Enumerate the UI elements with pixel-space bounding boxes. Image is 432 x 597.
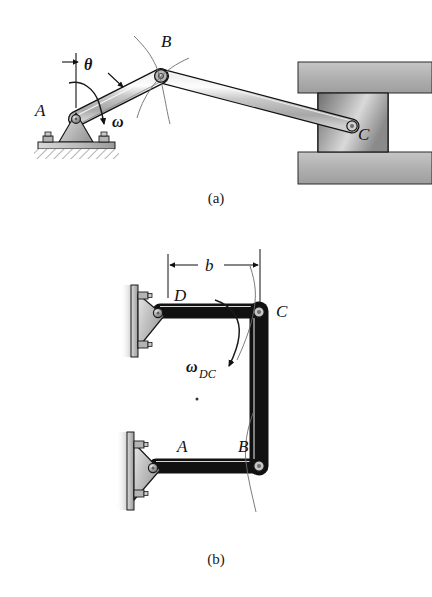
ground-support-a	[34, 113, 119, 159]
label-d-pivot: D	[173, 286, 187, 305]
label-omega-dc: ω DC	[186, 358, 217, 381]
omega-dc-subscript: DC	[198, 367, 217, 381]
label-theta: θ	[84, 56, 93, 73]
pin-joint-b-b	[254, 461, 264, 471]
label-omega: ω	[112, 113, 124, 130]
wall-bracket-a-b	[127, 432, 160, 510]
pin-joint-c-b	[254, 307, 264, 317]
label-b-joint-b: B	[238, 437, 249, 456]
bracket-bolt-a-bottom	[134, 490, 148, 497]
coupler-link-bc-b	[254, 311, 259, 466]
base-plate-a	[38, 142, 115, 149]
stray-dot	[196, 398, 199, 401]
bracket-bolt-a-top	[134, 441, 148, 448]
label-a-pivot-b: A	[176, 437, 188, 456]
bracket-plate-d	[131, 285, 138, 357]
caption-a: (a)	[0, 190, 432, 207]
theta-leader	[108, 73, 123, 87]
label-dimension-b: b	[205, 256, 214, 275]
bracket-plate-a	[127, 432, 134, 510]
bracket-gusset-d	[138, 294, 164, 348]
bracket-bolt-d-top	[138, 292, 152, 299]
figure-container: A B C θ ω b	[0, 0, 432, 597]
guide-wall-bottom	[298, 152, 432, 184]
label-c-slider: C	[358, 125, 370, 144]
label-b-joint: B	[161, 32, 172, 51]
link-dc	[160, 307, 256, 312]
caption-b: (b)	[0, 551, 432, 568]
bracket-bolt-d-bottom	[138, 341, 152, 348]
label-c-joint-b: C	[276, 302, 288, 321]
ground-hatch-a	[34, 149, 119, 159]
link-ab-b	[156, 462, 256, 467]
guide-wall-top	[298, 62, 432, 93]
mechanism-figure-svg: A B C θ ω b	[0, 0, 432, 597]
pin-joint-c	[347, 121, 357, 131]
label-a-pivot: A	[34, 101, 46, 120]
panel-b-group: b	[116, 249, 288, 512]
wall-bracket-d	[131, 285, 164, 357]
base-bolt-left	[43, 132, 53, 142]
panel-a-group: A B C θ ω	[34, 32, 432, 184]
omega-dc-base: ω	[186, 358, 198, 375]
base-bolt-right	[99, 132, 109, 142]
